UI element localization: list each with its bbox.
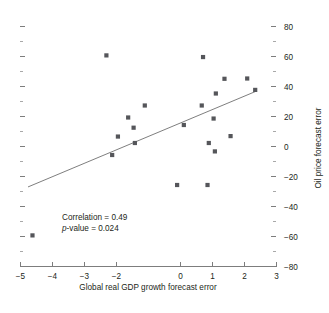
x-axis-title: Global real GDP growth forecast error xyxy=(79,283,217,292)
x-tick-label: 3 xyxy=(274,272,279,281)
data-point xyxy=(143,103,147,107)
data-point xyxy=(200,103,204,107)
data-point xyxy=(222,77,226,81)
y-axis-title: Oil price forecast error xyxy=(314,107,323,188)
y-tick-label: −80 xyxy=(284,263,298,272)
y-tick-label: 40 xyxy=(284,83,294,92)
data-points xyxy=(30,53,257,237)
y-axis-tick-labels: 806040200−20−40−60−80 xyxy=(284,23,298,272)
data-point xyxy=(212,116,216,120)
x-tick-label: −5 xyxy=(16,272,26,281)
y-tick-label: −20 xyxy=(284,173,298,182)
x-tick-label: 0 xyxy=(178,272,183,281)
y-axis-minor-ticks xyxy=(20,42,276,252)
data-point xyxy=(175,183,179,187)
y-tick-label: 0 xyxy=(284,143,289,152)
chart-canvas: 806040200−20−40−60−80 −5−4−3−20123 Globa… xyxy=(0,0,329,313)
data-point xyxy=(201,55,205,59)
y-tick-label: −40 xyxy=(284,203,298,212)
data-point xyxy=(205,183,209,187)
x-tick-label: 1 xyxy=(210,272,215,281)
data-point xyxy=(207,141,211,145)
x-tick-label: −3 xyxy=(80,272,90,281)
regression-line xyxy=(28,91,257,187)
data-point xyxy=(30,233,34,237)
data-point xyxy=(104,53,108,57)
data-point xyxy=(110,153,114,157)
y-tick-label: 20 xyxy=(284,113,294,122)
x-tick-label: 2 xyxy=(242,272,247,281)
data-point xyxy=(132,126,136,130)
data-point xyxy=(126,115,130,119)
data-point xyxy=(228,134,232,138)
x-axis-tick-labels: −5−4−3−20123 xyxy=(16,272,279,281)
data-point xyxy=(213,149,217,153)
x-tick-label: −4 xyxy=(48,272,58,281)
data-point xyxy=(214,91,218,95)
scatter-chart: 806040200−20−40−60−80 −5−4−3−20123 Globa… xyxy=(0,0,329,313)
y-tick-label: −60 xyxy=(284,233,298,242)
pvalue-annotation: p-value = 0.024 xyxy=(61,224,119,233)
data-point xyxy=(116,134,120,138)
data-point xyxy=(245,76,249,80)
data-point xyxy=(182,123,186,127)
y-axis-major-ticks xyxy=(20,27,276,267)
x-tick-label: −2 xyxy=(112,272,122,281)
data-point xyxy=(133,141,137,145)
data-point xyxy=(253,88,257,92)
correlation-annotation: Correlation = 0.49 xyxy=(62,213,128,222)
y-tick-label: 80 xyxy=(284,23,294,32)
y-tick-label: 60 xyxy=(284,53,294,62)
